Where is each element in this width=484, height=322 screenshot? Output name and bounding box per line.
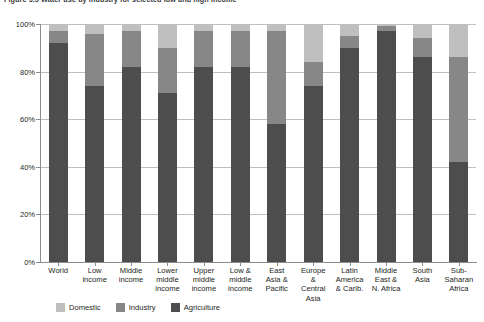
bar-segment-industry[interactable] [304,62,323,86]
bar-segment-industry[interactable] [194,31,213,67]
x-axis-label-line: income [77,275,111,284]
x-axis-label-line: Saharan [442,275,476,284]
bar-group [404,24,440,262]
bar-segment-domestic[interactable] [49,24,68,31]
bar-segment-industry[interactable] [231,31,250,67]
stacked-bar[interactable] [231,24,250,262]
bar-segment-industry[interactable] [49,31,68,43]
legend-swatch-icon [56,303,65,312]
bar-group [441,24,477,262]
x-axis-label: Sub-SaharanAfrica [441,266,477,303]
y-tick-label: 0% [0,258,35,267]
stacked-bar[interactable] [158,24,177,262]
y-tick-label: 40% [0,163,35,172]
bar-segment-domestic[interactable] [231,24,250,31]
x-axis-label-line: income [187,284,221,293]
bar-segment-domestic[interactable] [122,24,141,31]
bar-segment-industry[interactable] [449,57,468,162]
x-axis-label-line: middle [187,275,221,284]
bar-segment-agriculture[interactable] [231,67,250,262]
bar-segment-industry[interactable] [340,36,359,48]
x-axis-label-line: & [296,275,330,284]
x-axis-label: Low &middleincome [222,266,258,303]
x-axis-label-line: East & [369,275,403,284]
x-axis-label-line: Central [296,284,330,293]
legend-swatch-icon [116,303,125,312]
legend-item-domestic[interactable]: Domestic [56,303,101,312]
bar-segment-industry[interactable] [158,48,177,93]
x-axis-label-line: Asia [405,275,439,284]
legend-label: Industry [129,303,156,312]
legend-item-agriculture[interactable]: Agriculture [171,303,220,312]
bar-segment-agriculture[interactable] [122,67,141,262]
bar-segment-agriculture[interactable] [85,86,104,262]
x-axis-label: Europe&CentralAsia [295,266,331,303]
legend-label: Domestic [69,303,101,312]
x-axis-label-line: Low & [223,266,257,275]
bar-segment-agriculture[interactable] [377,31,396,262]
bar-group [259,24,295,262]
x-axis-label-line: South [405,266,439,275]
bar-segment-agriculture[interactable] [340,48,359,262]
x-axis-label-line: Pacific [260,284,294,293]
stacked-bar[interactable] [267,24,286,262]
x-axis-label: LatinAmerica& Carib. [331,266,367,303]
x-axis-label-line: Upper [187,266,221,275]
bar-segment-domestic[interactable] [267,24,286,31]
x-axis-label-line: Asia [296,294,330,303]
bar-segment-industry[interactable] [267,31,286,124]
bar-segment-domestic[interactable] [194,24,213,31]
stacked-bar[interactable] [377,24,396,262]
x-axis-label: Lowincome [76,266,112,303]
bar-segment-agriculture[interactable] [194,67,213,262]
stacked-bar[interactable] [49,24,68,262]
bar-group [331,24,367,262]
x-axis-label-line: N. Africa [369,284,403,293]
bar-segment-domestic[interactable] [304,24,323,62]
y-tick-mark [36,262,40,263]
x-axis-label-line: World [41,266,75,275]
bar-segment-agriculture[interactable] [267,124,286,262]
bar-group [186,24,222,262]
x-axis-label: Lowermiddleincome [149,266,185,303]
x-axis-label: Uppermiddleincome [186,266,222,303]
legend-item-industry[interactable]: Industry [116,303,156,312]
legend-label: Agriculture [184,303,220,312]
stacked-bar[interactable] [449,24,468,262]
x-axis-label: EastAsia &Pacific [259,266,295,303]
bar-segment-industry[interactable] [122,31,141,67]
bar-segment-agriculture[interactable] [449,162,468,262]
bar-segment-domestic[interactable] [158,24,177,48]
bar-segment-agriculture[interactable] [413,57,432,262]
x-axis-label-line: & Carib. [332,284,366,293]
x-axis-label: SouthAsia [404,266,440,303]
stacked-bar[interactable] [413,24,432,262]
bar-group [149,24,185,262]
bar-segment-domestic[interactable] [85,24,104,34]
x-axis-label-line: income [150,284,184,293]
x-axis-label-line: Asia & [260,275,294,284]
stacked-bar[interactable] [304,24,323,262]
y-tick-label: 60% [0,115,35,124]
bar-segment-domestic[interactable] [413,24,432,38]
bar-segment-agriculture[interactable] [304,86,323,262]
bar-segment-industry[interactable] [85,34,104,86]
x-axis-label: MiddleEast &N. Africa [368,266,404,303]
bar-segment-agriculture[interactable] [158,93,177,262]
x-axis-label-line: America [332,275,366,284]
bar-segment-domestic[interactable] [449,24,468,57]
stacked-bar[interactable] [85,24,104,262]
bar-group [368,24,404,262]
bar-segment-domestic[interactable] [340,24,359,36]
bar-group [295,24,331,262]
bar-series-container [40,24,477,262]
x-axis-label-line: Europe [296,266,330,275]
bar-segment-agriculture[interactable] [49,43,68,262]
stacked-bar[interactable] [340,24,359,262]
x-axis-label-line: Lower [150,266,184,275]
bar-group [76,24,112,262]
stacked-bar[interactable] [122,24,141,262]
stacked-bar[interactable] [194,24,213,262]
y-tick-label: 100% [0,20,35,29]
bar-segment-industry[interactable] [413,38,432,57]
